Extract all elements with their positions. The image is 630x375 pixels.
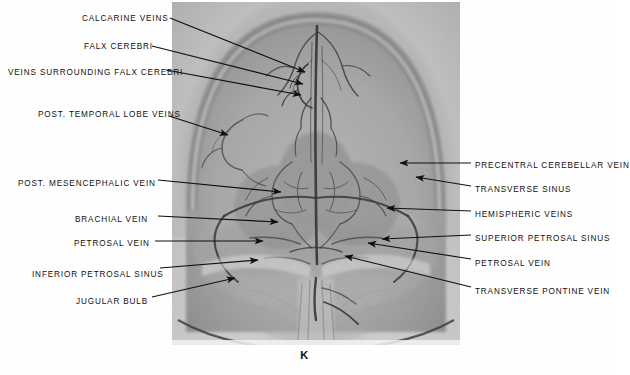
annotation-label: PRECENTRAL CEREBELLAR VEIN: [475, 161, 630, 171]
annotation-label: PETROSAL VEIN: [74, 239, 150, 249]
annotation-label: CALCARINE VEINS: [82, 14, 168, 24]
annotation-label: POST. MESENCEPHALIC VEIN: [18, 179, 156, 189]
annotation-label: SUPERIOR PETROSAL SINUS: [475, 234, 610, 244]
radiograph-image: [172, 2, 460, 345]
annotation-label: INFERIOR PETROSAL SINUS: [32, 270, 164, 280]
annotation-label: POST. TEMPORAL LOBE VEINS: [38, 110, 181, 120]
annotation-label: HEMISPHERIC VEINS: [475, 210, 573, 220]
annotation-label: BRACHIAL VEIN: [75, 215, 148, 225]
annotation-label: FALX CEREBRI: [84, 42, 153, 52]
annotation-label: TRANSVERSE PONTINE VEIN: [475, 287, 610, 297]
annotation-label: JUGULAR BULB: [76, 297, 148, 307]
annotation-label: TRANSVERSE SINUS: [475, 185, 571, 195]
annotation-label: PETROSAL VEIN: [475, 259, 551, 269]
figure-caption: K: [0, 349, 609, 361]
annotation-label: VEINS SURROUNDING FALX CEREBRI: [8, 68, 183, 78]
